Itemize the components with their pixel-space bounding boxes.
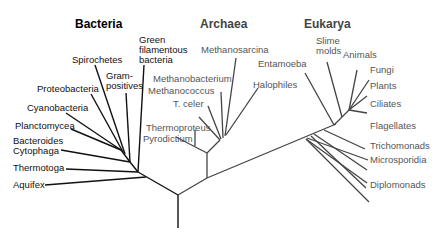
- label-methanococcus: Methanococcus: [148, 86, 215, 96]
- label-diplomonads: Diplomonads: [370, 180, 425, 190]
- tree-of-life-diagram: Bacteria Archaea Eukarya Green filamento…: [0, 0, 435, 235]
- label-ciliates: Ciliates: [370, 99, 401, 109]
- label-animals: Animals: [343, 50, 377, 60]
- label-green-3: bacteria: [139, 55, 173, 65]
- label-aquifex: Aquifex: [13, 180, 45, 190]
- bacteria-heading: Bacteria: [75, 17, 122, 31]
- label-flagellates: Flagellates: [370, 121, 416, 131]
- label-methanobacterium: Methanobacterium: [153, 74, 232, 84]
- archaea-heading: Archaea: [200, 17, 247, 31]
- label-entamoeba: Entamoeba: [258, 59, 307, 69]
- label-thermotoga: Thermotoga: [13, 163, 64, 173]
- label-pyrodictium: Pyrodictium: [143, 134, 193, 144]
- label-spirochetes: Spirochetes: [72, 55, 122, 65]
- label-cytophaga: Cytophaga: [13, 146, 59, 156]
- label-methanosarcina: Methanosarcina: [201, 45, 269, 55]
- label-t-celer: T. celer: [173, 99, 204, 109]
- label-halophiles: Halophiles: [253, 80, 297, 90]
- eukarya-heading: Eukarya: [304, 17, 351, 31]
- label-slime-2: molds: [316, 46, 341, 56]
- label-proteobacteria: Proteobacteria: [37, 84, 99, 94]
- label-thermoproteus: Thermoproteus: [146, 123, 210, 133]
- label-cyanobacteria: Cyanobacteria: [27, 103, 88, 113]
- tree-branches: [0, 0, 435, 235]
- label-fungi: Fungi: [370, 65, 394, 75]
- label-gram-2: positives: [106, 81, 143, 91]
- label-trichomonads: Trichomonads: [370, 141, 430, 151]
- label-planctomycea: Planctomycea: [15, 121, 75, 131]
- label-microsporidia: Microsporidia: [370, 155, 427, 165]
- label-plants: Plants: [370, 81, 396, 91]
